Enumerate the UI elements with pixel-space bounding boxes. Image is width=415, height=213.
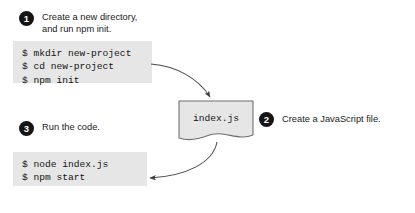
step-badge-3: 3 [19, 121, 34, 136]
step-caption-3: Run the code. [42, 121, 162, 133]
step-caption-2: Create a JavaScript file. [282, 113, 408, 125]
diagram-canvas: 1 Create a new directory, and run npm in… [0, 0, 415, 213]
arrow-document-to-run [150, 142, 217, 178]
arrow-init-to-document [151, 64, 210, 97]
step-badge-1: 1 [19, 11, 34, 26]
index-js-filename: index.js [178, 113, 254, 124]
code-block-run: $ node index.js $ npm start [13, 152, 147, 186]
index-js-document: index.js [178, 100, 254, 142]
step-caption-1: Create a new directory, and run npm init… [42, 11, 172, 35]
code-block-init: $ mkdir new-project $ cd new-project $ n… [13, 41, 152, 83]
step-badge-2: 2 [259, 112, 274, 127]
